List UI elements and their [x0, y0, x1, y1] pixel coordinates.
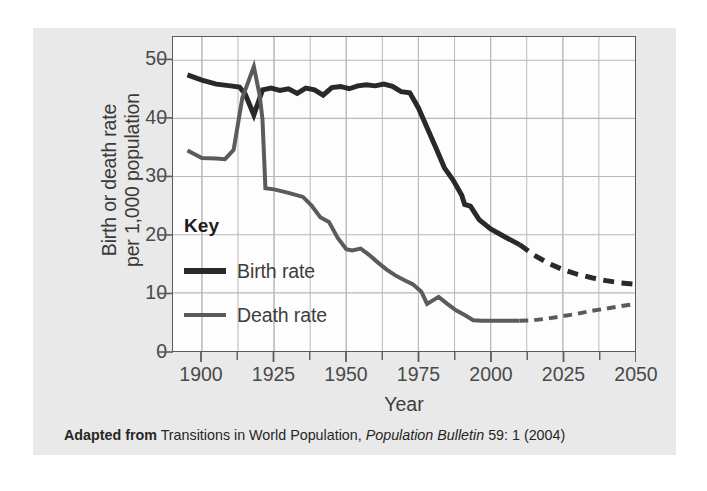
legend-swatch-death-rate	[184, 313, 226, 318]
legend-label-death-rate: Death rate	[237, 304, 327, 327]
y-axis-tick-label: 40	[131, 108, 167, 128]
y-axis-tick-label: 20	[131, 225, 167, 245]
legend-label-birth-rate: Birth rate	[237, 260, 315, 283]
caption-publication: Population Bulletin	[366, 427, 484, 443]
x-axis-tick-label: 1950	[324, 365, 367, 385]
caption-source-title: Transitions in World Population,	[161, 427, 362, 443]
x-axis-tick-label: 2050	[614, 365, 657, 385]
x-axis-tick-label: 1925	[252, 365, 295, 385]
y-axis-tick-labels: 01020304050	[131, 28, 167, 455]
legend-title: Key	[184, 215, 364, 237]
x-axis-tick-labels: 1900192519501975200020252050	[172, 365, 636, 389]
y-axis-tick-label: 10	[131, 284, 167, 304]
x-axis-tick-label: 2000	[469, 365, 512, 385]
caption-citation: 59: 1 (2004)	[488, 427, 565, 443]
y-axis-tick-label: 30	[131, 167, 167, 187]
plot-area: Key Birth rate Death rate	[172, 36, 636, 352]
figure-panel: Birth or death rate per 1,000 population…	[33, 28, 676, 455]
x-axis-tick-label: 2025	[542, 365, 585, 385]
y-axis-tick-label: 0	[131, 342, 167, 362]
y-axis-title-line-1: Birth or death rate	[98, 104, 121, 256]
caption-prefix: Adapted from	[64, 427, 157, 443]
legend-swatch-birth-rate	[184, 268, 226, 274]
x-axis-tick-label: 1975	[397, 365, 440, 385]
x-axis-title: Year	[172, 393, 636, 416]
figure-caption: Adapted from Transitions in World Popula…	[64, 426, 664, 445]
legend: Key Birth rate Death rate	[184, 215, 364, 349]
y-axis-tick-label: 50	[131, 50, 167, 70]
legend-item-death-rate: Death rate	[184, 305, 364, 325]
x-axis-tick-label: 1900	[179, 365, 222, 385]
legend-item-birth-rate: Birth rate	[184, 261, 364, 281]
x-axis-tick-marks	[172, 352, 636, 363]
